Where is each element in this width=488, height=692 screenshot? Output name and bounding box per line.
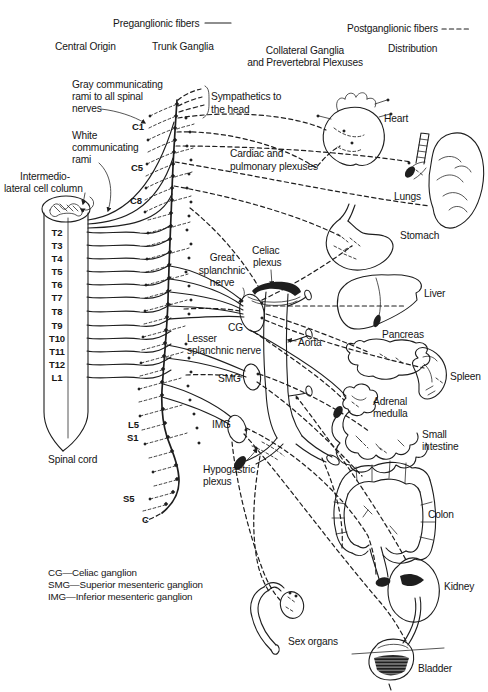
column-header-distribution: Distribution: [388, 43, 437, 54]
label-small-intestine-line2: intestine: [422, 441, 459, 452]
colon-illustration: [332, 461, 436, 588]
sympathetic-nervous-system-diagram: Preganglionic fibers Postganglionic fibe…: [0, 0, 488, 692]
label-aorta: Aorta: [298, 337, 322, 348]
label-gray-rami-line1: Gray communicating: [72, 79, 163, 90]
label-img: IMG: [212, 419, 231, 430]
label-gray-rami-line3: nerves: [72, 103, 102, 114]
label-preganglionic-key: Preganglionic fibers: [113, 18, 200, 29]
label-small-intestine-line1: Small: [422, 429, 447, 440]
level-t4: T4: [52, 253, 64, 264]
label-intermediolateral-line1: Intermedio-: [20, 171, 70, 182]
label-liver: Liver: [424, 288, 446, 299]
label-celiac-plexus-line1: Celiac: [252, 245, 279, 256]
column-header-collateral-line1: Collateral Ganglia: [266, 45, 345, 56]
label-kidney: Kidney: [444, 581, 475, 592]
label-great-splanchnic-line3: nerve: [210, 277, 235, 288]
level-c1: C1: [132, 121, 145, 132]
legend-line-cg: CG—Celiac ganglion: [48, 567, 137, 578]
label-spleen: Spleen: [450, 371, 481, 382]
level-c-coccygeal: C: [142, 514, 149, 525]
legend-line-img: IMG—Inferior mesenteric ganglion: [48, 591, 192, 602]
label-stomach: Stomach: [400, 230, 439, 241]
level-t5: T5: [52, 266, 64, 277]
spinal-nerve-lines: [87, 225, 171, 378]
label-lesser-splanchnic-line1: Lesser: [187, 333, 217, 344]
liver-illustration: [337, 275, 421, 329]
level-l5: L5: [128, 419, 140, 430]
label-postganglionic-key: Postganglionic fibers: [347, 23, 438, 34]
label-gray-rami-line2: rami to all spinal: [72, 91, 143, 102]
level-t6: T6: [52, 279, 63, 290]
figure-page: Preganglionic fibers Postganglionic fibe…: [0, 0, 488, 692]
label-great-splanchnic-line2: splanchnic: [199, 265, 246, 276]
label-great-splanchnic-line1: Great: [210, 252, 235, 263]
label-hypogastric-line2: plexus: [203, 476, 232, 487]
label-sympathetics-head-line2: the head: [211, 104, 250, 115]
level-t11: T11: [49, 346, 65, 357]
label-sex-organs: Sex organs: [288, 636, 338, 647]
label-white-rami-line3: rami: [72, 154, 91, 165]
level-s1: S1: [127, 432, 139, 443]
lungs-illustration: [403, 133, 484, 228]
level-t12: T12: [49, 359, 65, 370]
label-white-rami-line1: White: [72, 130, 98, 141]
kidney-illustration: [388, 558, 439, 645]
label-smg: SMG: [218, 373, 241, 384]
label-lesser-splanchnic-line2: splanchnic nerve: [187, 345, 262, 356]
label-lungs: Lungs: [394, 191, 421, 202]
level-t10: T10: [49, 333, 65, 344]
label-adrenal-line1: Adrenal: [373, 396, 407, 407]
label-white-rami-line2: communicating: [72, 142, 139, 153]
column-header-collateral-line2: and Prevertebral Plexuses: [247, 57, 363, 68]
column-header-trunk-ganglia: Trunk Ganglia: [152, 41, 214, 52]
label-celiac-plexus-line2: plexus: [253, 257, 282, 268]
label-pancreas: Pancreas: [382, 329, 424, 340]
level-t8: T8: [52, 306, 63, 317]
label-colon: Colon: [428, 509, 454, 520]
ascending-fiber-lines: [88, 122, 174, 228]
ganglion-dots: [137, 98, 411, 598]
spinal-cord-illustration: [42, 196, 94, 451]
stomach-illustration: [326, 204, 393, 270]
label-sympathetics-head-line1: Sympathetics to: [211, 91, 282, 102]
legend-line-smg: SMG—Superior mesenteric ganglion: [48, 579, 203, 590]
level-c5: C5: [131, 162, 144, 173]
label-bladder: Bladder: [418, 663, 453, 674]
level-c8: C8: [130, 195, 142, 206]
label-hypogastric-line1: Hypogastric: [203, 464, 255, 475]
label-spinal-cord: Spinal cord: [48, 454, 98, 465]
level-t9: T9: [52, 320, 63, 331]
gray-rami-stub-lines: [139, 105, 194, 511]
pancreas-illustration: [347, 339, 437, 379]
level-s5: S5: [123, 493, 135, 504]
collateral-ganglia-illustrations: [225, 292, 268, 445]
label-cardiac-pulmonary-line2: pulmonary plexuses: [230, 161, 318, 172]
level-l1: L1: [52, 372, 64, 383]
level-t3: T3: [52, 240, 63, 251]
label-cg: CG: [228, 322, 243, 333]
label-adrenal-line2: medulla: [373, 408, 408, 419]
level-t2: T2: [52, 227, 63, 238]
label-intermediolateral-line2: lateral cell column: [4, 183, 83, 194]
label-heart: Heart: [384, 113, 408, 124]
level-t7: T7: [52, 292, 63, 303]
label-cardiac-pulmonary-line1: Cardiac and: [230, 148, 284, 159]
column-header-central-origin: Central Origin: [55, 41, 116, 52]
celiac-plexus-illustration: [252, 282, 301, 296]
